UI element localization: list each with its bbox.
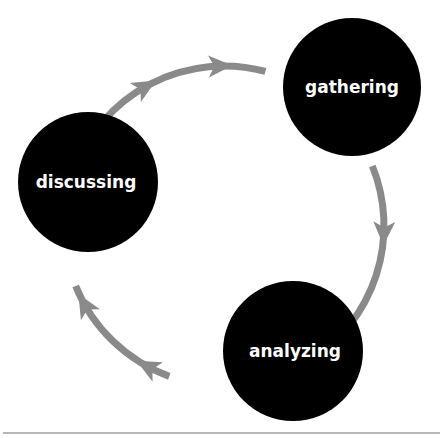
cycle-diagram: gathering analyzing discussing (0, 0, 444, 438)
bottom-divider (3, 432, 440, 434)
node-gathering: gathering (283, 18, 421, 156)
node-discussing: discussing (18, 112, 158, 252)
node-analyzing: analyzing (223, 281, 363, 421)
cycle-nodes: gathering analyzing discussing (18, 18, 421, 421)
node-label-analyzing: analyzing (249, 341, 341, 361)
node-label-discussing: discussing (36, 172, 137, 192)
node-label-gathering: gathering (305, 77, 399, 97)
